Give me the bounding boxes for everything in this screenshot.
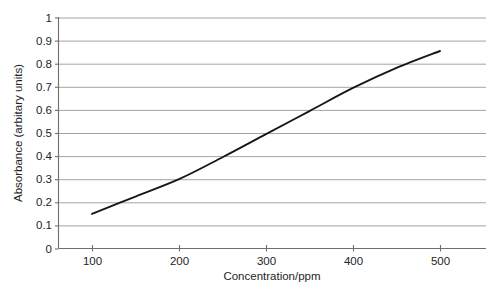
y-tick-label: 0.6 <box>36 104 52 116</box>
y-tick-label: 0.1 <box>36 219 52 231</box>
y-tick-label: 0.8 <box>36 58 52 70</box>
y-tick-label: 0.5 <box>36 127 52 139</box>
absorbance-concentration-line-chart: 10.90.80.70.60.50.40.30.20.10 1002003004… <box>0 0 500 297</box>
y-tick-label: 1 <box>46 12 52 24</box>
y-tick-label: 0.2 <box>36 196 52 208</box>
x-tick-label: 200 <box>170 255 189 267</box>
y-tick-label: 0.3 <box>36 173 52 185</box>
y-tick-label: 0 <box>46 243 52 255</box>
y-axis-title: Absorbance (arbitary units) <box>12 64 24 202</box>
y-tick-label: 0.9 <box>36 35 52 47</box>
chart-container: 10.90.80.70.60.50.40.30.20.10 1002003004… <box>0 0 500 297</box>
x-tick-label: 300 <box>257 255 276 267</box>
x-tick-label: 500 <box>431 255 450 267</box>
x-tick-label: 400 <box>344 255 363 267</box>
y-tick-label: 0.7 <box>36 81 52 93</box>
x-tick-label: 100 <box>83 255 102 267</box>
y-tick-label: 0.4 <box>36 150 53 162</box>
x-axis-title: Concentration/ppm <box>223 270 320 282</box>
chart-background <box>0 0 500 297</box>
